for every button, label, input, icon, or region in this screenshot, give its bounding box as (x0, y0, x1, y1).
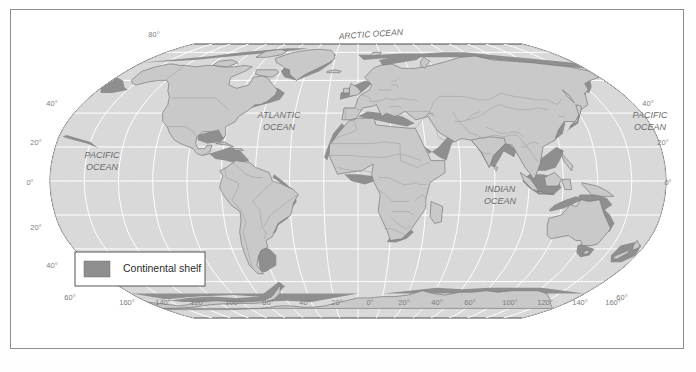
world-map[interactable]: ARCTIC OCEANATLANTICOCEANPACIFICOCEANPAC… (10, 9, 684, 349)
lon-label-160-613: 160° (605, 298, 621, 307)
lat-label-left-0-30: 0° (26, 178, 33, 187)
lat-label-left-40-52: 40° (46, 261, 57, 270)
lat-label-left-20-36: 20° (30, 223, 41, 232)
land-hispaniola (233, 149, 243, 151)
lat-label-left-80-154: 80° (148, 30, 159, 39)
lon-label-160-127: 160° (119, 298, 135, 307)
lat-label-right-40-648: 40° (642, 99, 653, 108)
legend-swatch-continental-shelf (84, 261, 110, 277)
lat-label-left-40-52: 40° (46, 99, 57, 108)
lat-label-left-20-36: 20° (30, 138, 41, 147)
lat-label-left-60-70: 60° (64, 293, 75, 302)
ocean-label-arctic-ocean: ARCTIC OCEAN (337, 27, 404, 42)
figure-page: ARCTIC OCEANATLANTICOCEANPACIFICOCEANPAC… (0, 0, 696, 372)
map-stage: ARCTIC OCEANATLANTICOCEANPACIFICOCEANPAC… (0, 0, 696, 372)
lat-label-right-60-622: 60° (616, 293, 627, 302)
land-ireland (343, 88, 349, 93)
map-legend[interactable]: Continental shelf (75, 252, 205, 286)
